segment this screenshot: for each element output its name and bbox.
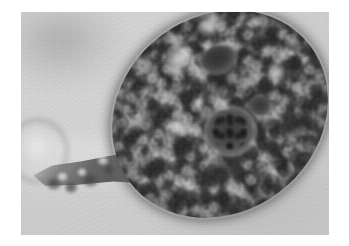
uroid-highlight: [77, 168, 87, 177]
uroid-granule: [83, 174, 99, 188]
uroid-granule: [103, 164, 117, 177]
uroid-granule: [65, 182, 78, 194]
micrograph-plate: [21, 12, 329, 235]
micrograph-figure: [0, 0, 349, 246]
uroid-highlight: [57, 172, 68, 182]
uroid-highlight: [97, 156, 109, 166]
